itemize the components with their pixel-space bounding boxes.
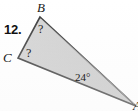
geometry-figure: 12. B C A ? ? 24° [0,0,138,111]
angle-label-b: ? [38,23,43,35]
vertex-label-a: A [133,99,138,111]
triangle-diagram-svg [0,0,138,111]
angle-label-a: 24° [75,72,90,83]
angle-label-c: ? [26,47,31,59]
vertex-label-b: B [37,1,45,14]
triangle-abc [18,17,136,106]
vertex-label-c: C [3,51,12,64]
problem-number: 12. [4,23,21,36]
